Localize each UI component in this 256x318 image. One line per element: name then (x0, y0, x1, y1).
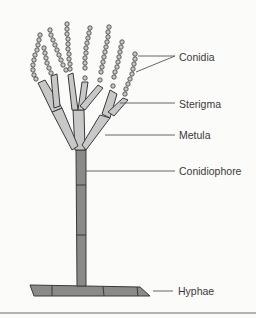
chain-8 (123, 52, 137, 96)
chain-1 (31, 33, 42, 81)
chain-5 (83, 26, 92, 80)
hyphae-shape (30, 285, 150, 296)
conidiophore-illustration (0, 0, 256, 318)
label-hyphae: Hyphae (178, 285, 214, 297)
label-metula: Metula (179, 129, 211, 141)
metula-right (82, 115, 110, 150)
chain-7 (111, 40, 124, 88)
chain-4 (65, 22, 72, 71)
label-conidia: Conidia (179, 51, 215, 63)
chain-6 (98, 25, 111, 82)
chain-2 (42, 46, 53, 75)
conidiophore-stalk (76, 150, 86, 286)
diagram-canvas: Conidia Sterigma Metula Conidiophore Hyp… (0, 0, 256, 318)
label-conidiophore: Conidiophore (179, 165, 241, 177)
label-sterigma: Sterigma (179, 98, 221, 110)
